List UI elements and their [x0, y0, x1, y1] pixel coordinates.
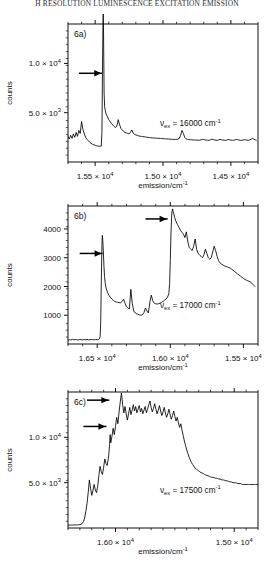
- excitation-annotation: νex = 16000 cm-1: [160, 118, 221, 129]
- y-tick-label: 5.0 × 103: [29, 107, 61, 117]
- y-tick-label: 5.0 × 103: [29, 477, 61, 487]
- y-axis-label: counts: [5, 448, 14, 472]
- spectrum-plot: 40003000200010001.65 × 1041.60 × 1041.55…: [0, 196, 274, 378]
- x-tick-label: 1.45 × 104: [212, 171, 250, 181]
- annotation-arrow: [79, 70, 102, 76]
- spectrum-plot: 1.0 × 1045.0 × 1031.55 × 1041.50 × 1041.…: [0, 14, 274, 196]
- y-tick-label: 1.0 × 104: [29, 58, 62, 68]
- panel-label: 6c): [74, 397, 86, 407]
- x-tick-label: 1.50 × 104: [145, 171, 183, 181]
- spectrum-trace: [68, 393, 258, 525]
- y-tick-label: 4000: [43, 225, 61, 234]
- spectrum-plot: 1.0 × 1045.0 × 1031.60 × 1041.50 × 104em…: [0, 378, 274, 564]
- annotation-arrow: [145, 216, 167, 222]
- y-tick-label: 1000: [43, 311, 61, 320]
- excitation-annotation: νex = 17000 cm-1: [160, 300, 221, 311]
- x-tick-label: 1.55 × 104: [77, 171, 115, 181]
- running-head: H RESOLUTION LUMINESCENCE EXCITATION EMI…: [0, 0, 274, 8]
- x-tick-label: 1.55 × 104: [225, 353, 263, 363]
- y-tick-label: 2000: [43, 283, 61, 292]
- x-axis-label: emission/cm-1: [138, 362, 188, 372]
- plot-frame: [68, 24, 258, 162]
- annotation-arrow: [87, 397, 109, 403]
- x-axis-label: emission/cm-1: [138, 180, 188, 190]
- excitation-annotation: νex = 17500 cm-1: [160, 484, 221, 495]
- y-axis-label: counts: [5, 263, 14, 287]
- spectrum-trace: [68, 209, 255, 340]
- panel-label: 6a): [74, 29, 86, 39]
- x-tick-label: 1.50 × 104: [216, 537, 254, 547]
- x-tick-label: 1.60 × 104: [97, 537, 135, 547]
- panel-6a: 1.0 × 1045.0 × 1031.55 × 1041.50 × 1041.…: [0, 14, 274, 196]
- x-tick-label: 1.65 × 104: [79, 353, 117, 363]
- panel-6c: 1.0 × 1045.0 × 1031.60 × 1041.50 × 104em…: [0, 378, 274, 564]
- y-tick-label: 3000: [43, 254, 61, 263]
- y-tick-label: 1.0 × 104: [29, 432, 62, 442]
- annotation-arrow: [80, 250, 103, 256]
- panel-6b: 40003000200010001.65 × 1041.60 × 1041.55…: [0, 196, 274, 378]
- x-axis-label: emission/cm-1: [138, 546, 188, 556]
- plot-frame: [68, 206, 258, 344]
- annotation-arrow: [83, 423, 106, 429]
- y-axis-label: counts: [5, 81, 14, 105]
- panel-label: 6b): [74, 211, 86, 221]
